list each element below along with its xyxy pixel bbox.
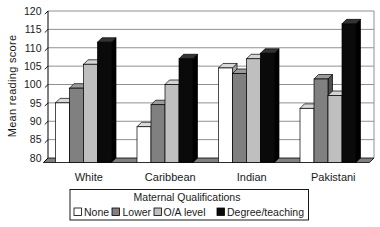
bar-white-degree-teaching <box>98 42 112 162</box>
legend-label-o-a-level: O/A level <box>164 206 206 218</box>
legend-swatch-o-a-level <box>154 208 162 216</box>
bar-indian-none <box>219 68 233 163</box>
mean-reading-score-chart: 80859095100105110115120WhiteCaribbeanInd… <box>0 0 380 227</box>
bar-white-none <box>56 103 70 163</box>
y-tick-label-115: 115 <box>25 23 42 35</box>
legend-label-lower: Lower <box>123 206 152 218</box>
bar-pakistani-lower <box>314 79 328 163</box>
bar-white-o-a-level <box>84 64 98 162</box>
legend-swatch-lower <box>112 208 120 216</box>
bar-caribbean-degree-teaching-side <box>193 54 198 162</box>
bar-indian-lower <box>233 73 247 162</box>
category-label-indian: Indian <box>237 171 267 183</box>
category-label-pakistani: Pakistani <box>311 171 356 183</box>
bar-pakistani-none <box>300 108 314 162</box>
y-tick-label-100: 100 <box>24 78 42 90</box>
legend-title: Maternal Qualifications <box>134 191 241 203</box>
bar-white-degree-teaching-side <box>112 38 117 163</box>
y-tick-label-95: 95 <box>30 97 42 109</box>
legend-swatch-degree-teaching <box>217 208 225 216</box>
bar-indian-degree-teaching <box>261 53 275 162</box>
category-label-white: White <box>75 171 103 183</box>
bar-caribbean-degree-teaching <box>179 59 193 163</box>
bar-white-lower <box>70 88 84 162</box>
bar-caribbean-none <box>137 127 151 163</box>
y-tick-label-120: 120 <box>24 5 42 17</box>
bar-caribbean-o-a-level <box>165 85 179 163</box>
y-tick-label-90: 90 <box>30 115 42 127</box>
bar-pakistani-degree-teaching-side <box>356 19 361 162</box>
bar-chart-svg: 80859095100105110115120WhiteCaribbeanInd… <box>0 0 380 227</box>
bar-pakistani-o-a-level <box>328 96 342 163</box>
legend-label-none: None <box>84 206 109 218</box>
bar-caribbean-lower <box>151 105 165 163</box>
y-tick-label-110: 110 <box>25 42 42 54</box>
bar-indian-degree-teaching-side <box>275 49 280 163</box>
y-axis-title: Mean reading score <box>6 35 18 138</box>
y-tick-label-105: 105 <box>24 60 42 72</box>
y-tick-label-80: 80 <box>30 152 42 164</box>
category-label-caribbean: Caribbean <box>145 171 196 183</box>
legend-swatch-none <box>74 208 82 216</box>
legend-label-degree-teaching: Degree/teaching <box>227 206 304 218</box>
bar-indian-o-a-level <box>247 59 261 163</box>
y-tick-label-85: 85 <box>30 133 42 145</box>
bar-pakistani-degree-teaching <box>342 24 356 163</box>
